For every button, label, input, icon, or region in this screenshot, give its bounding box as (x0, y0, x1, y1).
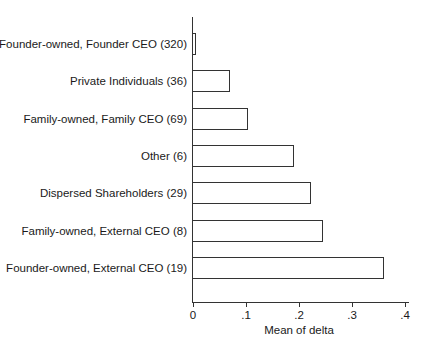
bar (193, 257, 384, 279)
category-label: Dispersed Shareholders (29) (40, 187, 187, 199)
bar (193, 145, 294, 167)
x-tick (405, 302, 406, 307)
x-tick (352, 302, 353, 307)
x-tick-label: .2 (294, 309, 304, 321)
x-tick-label: .1 (241, 309, 251, 321)
x-axis-title: Mean of delta (264, 324, 334, 336)
category-label: Founder-owned, Founder CEO (320) (0, 38, 187, 50)
bar (193, 33, 196, 55)
x-axis (192, 302, 409, 303)
x-tick (193, 302, 194, 307)
x-tick-label: .4 (400, 309, 410, 321)
bar (193, 70, 230, 92)
category-label: Family-owned, External CEO (8) (21, 225, 187, 237)
category-label: Private Individuals (36) (70, 75, 187, 87)
bar-chart: Founder-owned, Founder CEO (320) Private… (0, 0, 432, 343)
x-tick (299, 302, 300, 307)
category-label: Other (6) (141, 150, 187, 162)
category-label: Family-owned, Family CEO (69) (23, 113, 187, 125)
x-tick-label: .3 (347, 309, 357, 321)
bar (193, 220, 323, 242)
bar (193, 108, 248, 130)
category-label: Founder-owned, External CEO (19) (6, 262, 187, 274)
bar (193, 182, 311, 204)
x-tick (246, 302, 247, 307)
x-tick-label: 0 (190, 309, 196, 321)
